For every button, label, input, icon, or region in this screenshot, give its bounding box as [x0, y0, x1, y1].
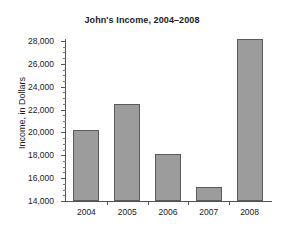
- y-axis-tick-label: 18,000: [28, 150, 54, 160]
- x-axis-tick: [188, 201, 189, 205]
- y-axis-tick: 14,000: [61, 201, 66, 202]
- y-axis-tick-label: 22,000: [28, 105, 54, 115]
- plot-area: 14,00016,00018,00020,00022,00024,00026,0…: [66, 41, 270, 201]
- y-axis-minor-tick: [63, 115, 66, 116]
- y-axis-minor-tick: [63, 195, 66, 196]
- y-axis-tick-label: 14,000: [28, 196, 54, 206]
- y-axis-title: Income, in Dollars: [17, 53, 27, 173]
- x-axis-tick-label: 2004: [77, 207, 96, 217]
- x-axis-tick-label: 2008: [240, 207, 259, 217]
- x-axis-tick: [107, 201, 108, 205]
- x-axis-tick-label: 2006: [159, 207, 178, 217]
- y-axis-tick: 28,000: [61, 41, 66, 42]
- bar: [155, 154, 181, 201]
- bar: [114, 104, 140, 201]
- y-axis-tick: 20,000: [61, 132, 66, 133]
- y-axis-minor-tick: [63, 190, 66, 191]
- x-axis-tick: [148, 201, 149, 205]
- y-axis-minor-tick: [63, 75, 66, 76]
- y-axis-tick-label: 28,000: [28, 36, 54, 46]
- y-axis-tick: 22,000: [61, 110, 66, 111]
- y-axis-tick-label: 24,000: [28, 82, 54, 92]
- x-axis-tick-label: 2005: [118, 207, 137, 217]
- y-axis-minor-tick: [63, 167, 66, 168]
- x-axis-tick-label: 2007: [199, 207, 218, 217]
- y-axis-minor-tick: [63, 92, 66, 93]
- y-axis-minor-tick: [63, 121, 66, 122]
- y-axis-minor-tick: [63, 184, 66, 185]
- y-axis-minor-tick: [63, 52, 66, 53]
- chart-title: John's Income, 2004–2008: [0, 15, 284, 25]
- y-axis-tick-label: 20,000: [28, 127, 54, 137]
- y-axis-tick: 26,000: [61, 64, 66, 65]
- y-axis-minor-tick: [63, 150, 66, 151]
- bar: [196, 187, 222, 201]
- x-axis-tick: [229, 201, 230, 205]
- y-axis-tick: 16,000: [61, 178, 66, 179]
- y-axis-minor-tick: [63, 172, 66, 173]
- x-axis-line: [65, 201, 272, 202]
- y-axis-tick-label: 16,000: [28, 173, 54, 183]
- y-axis-minor-tick: [63, 70, 66, 71]
- y-axis-minor-tick: [63, 104, 66, 105]
- bar: [237, 39, 263, 201]
- y-axis-minor-tick: [63, 127, 66, 128]
- y-axis-minor-tick: [63, 161, 66, 162]
- y-axis-minor-tick: [63, 138, 66, 139]
- bar-chart-figure: John's Income, 2004–2008 Income, in Doll…: [0, 0, 284, 232]
- bar: [73, 130, 99, 201]
- y-axis-minor-tick: [63, 81, 66, 82]
- y-axis-tick: 24,000: [61, 87, 66, 88]
- y-axis-minor-tick: [63, 58, 66, 59]
- y-axis-minor-tick: [63, 98, 66, 99]
- y-axis-tick-label: 26,000: [28, 59, 54, 69]
- y-axis-minor-tick: [63, 47, 66, 48]
- y-axis-tick: 18,000: [61, 155, 66, 156]
- y-axis-minor-tick: [63, 144, 66, 145]
